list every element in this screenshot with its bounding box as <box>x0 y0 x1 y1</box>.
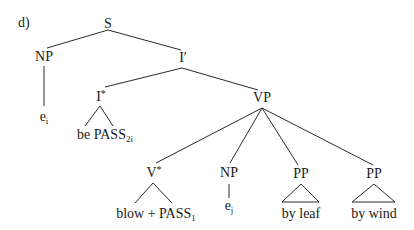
branch-ibar-vp <box>182 68 258 90</box>
node-i-bar: I′ <box>179 51 187 65</box>
branch-s-ibar <box>108 30 181 50</box>
branch-vstar-right <box>153 183 172 203</box>
node-star: * <box>101 88 106 99</box>
node-base: V <box>146 165 156 180</box>
terminal-text: be PASS <box>77 127 126 142</box>
triangle-pp-wind <box>352 184 395 202</box>
node-vp: VP <box>253 91 271 105</box>
node-s: S <box>104 17 112 31</box>
node-e-j-object: ej <box>225 199 234 213</box>
node-e-i-subject: ei <box>40 110 49 124</box>
triangle-pp-leaf <box>282 184 319 202</box>
branch-ibar-istar <box>105 68 182 87</box>
branch-vp-pp-wind <box>262 108 373 165</box>
node-np-object: NP <box>220 166 238 180</box>
node-np-subject: NP <box>35 50 53 64</box>
branch-s-np <box>47 30 108 48</box>
terminal-index: 1 <box>191 213 196 223</box>
terminal-text: blow + PASS <box>116 206 191 221</box>
branch-istar-left <box>85 106 100 126</box>
node-pp-wind: PP <box>366 167 382 181</box>
node-by-wind: by wind <box>351 207 397 221</box>
node-be-pass: be PASS2i <box>77 128 133 142</box>
node-star: * <box>157 164 162 175</box>
node-pp-leaf: PP <box>293 167 309 181</box>
node-i-star: I* <box>96 90 106 104</box>
branch-vstar-left <box>135 183 153 203</box>
node-by-leaf: by leaf <box>282 207 320 221</box>
trace-index: i <box>46 116 49 126</box>
branch-vp-pp-leaf <box>262 108 298 165</box>
example-label: d) <box>18 16 30 30</box>
branch-istar-right <box>100 106 113 126</box>
tree-branches <box>0 0 414 230</box>
node-v-star: V* <box>146 166 161 180</box>
terminal-index: 2i <box>126 134 133 144</box>
node-blow-pass: blow + PASS1 <box>116 207 196 221</box>
trace-index: j <box>231 205 234 215</box>
